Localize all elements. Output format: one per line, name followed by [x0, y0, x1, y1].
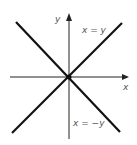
origin-point [67, 75, 72, 80]
y-axis-arrow-icon [66, 13, 72, 21]
coordinate-diagram: y x x = y x = −y [0, 0, 137, 145]
line-label-x-equals-y: x = y [81, 25, 107, 35]
line-label-x-equals-neg-y: x = −y [72, 118, 105, 128]
x-axis-arrow-icon [122, 74, 129, 80]
y-axis-label: y [54, 14, 61, 24]
x-axis-label: x [122, 82, 129, 92]
